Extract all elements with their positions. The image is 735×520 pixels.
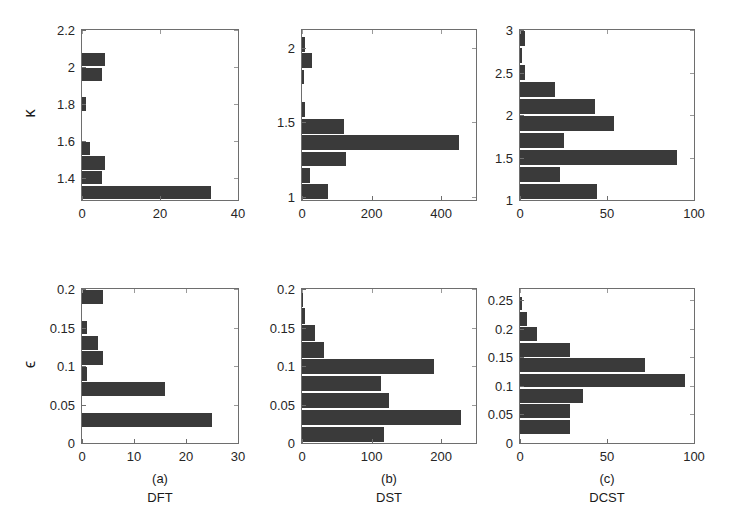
y-tick-label: 1.5 bbox=[247, 116, 295, 129]
bar bbox=[82, 186, 211, 199]
x-tick bbox=[441, 439, 442, 443]
x-tick bbox=[607, 196, 608, 200]
y-tick bbox=[520, 300, 524, 301]
y-tick-label: 0 bbox=[247, 437, 295, 450]
y-tick bbox=[302, 328, 306, 329]
bar bbox=[520, 133, 564, 149]
y-tick-label: 0.1 bbox=[465, 379, 513, 392]
y-tick bbox=[302, 366, 306, 367]
bar bbox=[82, 351, 103, 365]
x-tick-top bbox=[160, 30, 161, 34]
y-tick bbox=[82, 405, 86, 406]
y-tick-label: 1 bbox=[465, 194, 513, 207]
x-tick-top bbox=[186, 289, 187, 293]
x-tick-top bbox=[607, 289, 608, 293]
panel-caption-dcst: (c)DCST bbox=[589, 470, 624, 508]
y-tick-label: 0.15 bbox=[247, 321, 295, 334]
caption-id: (a) bbox=[147, 470, 172, 489]
y-tick-right bbox=[690, 386, 694, 387]
y-tick-right bbox=[234, 366, 238, 367]
y-tick bbox=[520, 73, 524, 74]
x-tick-label: 30 bbox=[231, 450, 245, 463]
y-tick-right bbox=[234, 178, 238, 179]
x-tick-top bbox=[302, 30, 303, 34]
x-tick-label: 100 bbox=[683, 450, 705, 463]
bar bbox=[302, 342, 324, 357]
y-tick-right bbox=[472, 366, 476, 367]
y-tick bbox=[520, 386, 524, 387]
x-tick-label: 10 bbox=[127, 450, 141, 463]
y-tick bbox=[520, 30, 524, 31]
y-tick bbox=[82, 67, 86, 68]
y-tick bbox=[520, 158, 524, 159]
x-tick bbox=[441, 196, 442, 200]
x-tick-top bbox=[238, 30, 239, 34]
bar-series-b-top bbox=[302, 30, 476, 200]
figure-histogram-grid: 020401.41.61.822.2020040011.5205010011.5… bbox=[0, 0, 735, 520]
bar-series-c-bottom bbox=[520, 289, 694, 443]
x-tick-label: 40 bbox=[231, 207, 245, 220]
y-tick bbox=[82, 30, 86, 31]
y-tick bbox=[82, 141, 86, 142]
bar bbox=[302, 135, 459, 150]
y-tick bbox=[82, 289, 86, 290]
bar bbox=[302, 168, 310, 183]
x-tick-top bbox=[694, 30, 695, 34]
bar bbox=[520, 48, 522, 64]
x-tick-label: 0 bbox=[516, 207, 523, 220]
x-tick-top bbox=[372, 289, 373, 293]
y-tick bbox=[302, 443, 306, 444]
y-tick bbox=[520, 357, 524, 358]
bar bbox=[302, 359, 434, 374]
bar bbox=[302, 393, 389, 408]
caption-id: (b) bbox=[376, 470, 402, 489]
bar bbox=[520, 82, 555, 98]
y-tick bbox=[520, 200, 524, 201]
y-tick bbox=[520, 115, 524, 116]
x-tick-label: 0 bbox=[516, 450, 523, 463]
y-tick-label: 1 bbox=[247, 191, 295, 204]
bar bbox=[302, 308, 305, 323]
x-tick-label: 0 bbox=[298, 207, 305, 220]
plot-area-c-bottom bbox=[519, 288, 695, 444]
y-tick-right bbox=[690, 357, 694, 358]
x-tick-label: 0 bbox=[78, 450, 85, 463]
y-tick-right bbox=[690, 158, 694, 159]
x-tick bbox=[238, 439, 239, 443]
bar bbox=[520, 312, 527, 326]
plot-area-b-top bbox=[301, 29, 477, 201]
y-tick-label: 0.2 bbox=[27, 283, 75, 296]
bar-series-b-bottom bbox=[302, 289, 476, 443]
y-tick-label: 2 bbox=[247, 41, 295, 54]
y-tick-right bbox=[690, 115, 694, 116]
bar bbox=[520, 116, 614, 132]
y-tick-label: 0 bbox=[27, 437, 75, 450]
y-tick-label: 2.5 bbox=[465, 66, 513, 79]
y-tick-right bbox=[690, 443, 694, 444]
y-tick-right bbox=[234, 104, 238, 105]
bar bbox=[520, 358, 645, 372]
x-tick-top bbox=[134, 289, 135, 293]
x-tick bbox=[694, 196, 695, 200]
bar bbox=[302, 53, 312, 68]
y-tick bbox=[302, 289, 306, 290]
y-tick bbox=[82, 178, 86, 179]
y-tick bbox=[520, 414, 524, 415]
x-tick bbox=[160, 196, 161, 200]
y-axis-title-epsilon: ϵ bbox=[21, 325, 38, 405]
y-tick-right bbox=[690, 300, 694, 301]
plot-area-c-top bbox=[519, 29, 695, 201]
y-tick bbox=[82, 366, 86, 367]
y-tick bbox=[82, 104, 86, 105]
x-tick-label: 200 bbox=[430, 450, 452, 463]
bar-series-a-top bbox=[82, 30, 238, 200]
y-tick-right bbox=[234, 328, 238, 329]
bar bbox=[520, 150, 677, 166]
bar bbox=[82, 290, 103, 304]
y-tick-right bbox=[690, 30, 694, 31]
bar bbox=[82, 53, 105, 66]
y-tick bbox=[302, 122, 306, 123]
y-tick-label: 2 bbox=[465, 109, 513, 122]
y-tick-right bbox=[472, 48, 476, 49]
y-tick-label: 0.25 bbox=[465, 294, 513, 307]
